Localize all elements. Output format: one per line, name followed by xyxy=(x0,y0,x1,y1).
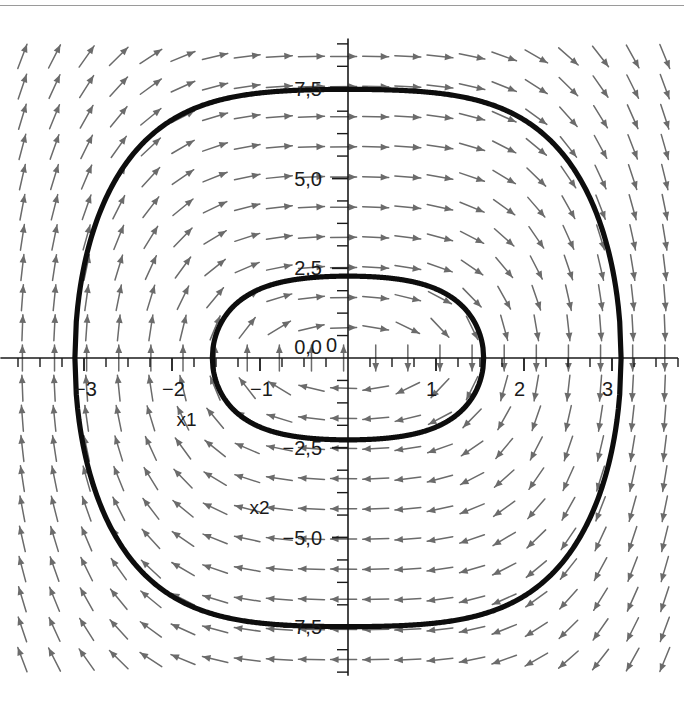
vector-arrowhead xyxy=(596,453,603,462)
vector-arrowhead xyxy=(363,506,371,513)
vector-arrowhead xyxy=(267,475,275,482)
y-tick-label: −2,5 xyxy=(283,437,322,459)
vector-arrowhead xyxy=(266,656,274,663)
vector-arrowhead xyxy=(661,483,668,491)
vector-arrowhead xyxy=(19,375,26,383)
vector-arrowhead xyxy=(629,393,636,401)
vector-arrowhead xyxy=(534,332,541,340)
axes-layer xyxy=(0,38,678,675)
vector-arrowhead xyxy=(630,272,637,280)
vector-arrowhead xyxy=(444,144,452,151)
vector-arrowhead xyxy=(276,345,283,353)
vector-arrowhead xyxy=(21,104,28,113)
vector-arrowhead xyxy=(331,536,339,543)
vector-arrowhead xyxy=(283,293,292,300)
vector-arrowhead xyxy=(180,345,187,353)
vector-arrowhead xyxy=(502,332,509,341)
vector-arrowhead xyxy=(117,255,124,264)
vector-arrowhead xyxy=(53,105,59,114)
vector-arrowhead xyxy=(395,536,403,543)
vector-arrowhead xyxy=(234,625,242,632)
x-tick-label: 1 xyxy=(426,378,437,400)
vector-arrowhead xyxy=(151,226,158,235)
vector-arrowhead xyxy=(18,436,25,444)
vector-arrowhead xyxy=(140,622,148,629)
y-tick-label: 2,5 xyxy=(294,257,322,279)
vector-arrowhead xyxy=(628,513,635,522)
vector-arrowhead xyxy=(526,599,534,606)
x-tick-label: −3 xyxy=(74,378,97,400)
vector-arrowhead xyxy=(83,405,90,413)
vector-arrowhead xyxy=(316,234,324,241)
vector-arrowhead xyxy=(460,537,469,543)
vector-arrowhead xyxy=(234,656,242,663)
vector-arrowhead xyxy=(331,415,339,422)
y-tick-label: −5,0 xyxy=(283,527,322,549)
vector-arrowhead xyxy=(203,564,212,570)
vector-arrowhead xyxy=(662,333,669,341)
plot-canvas: −3−2−10123−7,5−5,0−2,52,55,07,50,0x1x2 xyxy=(0,0,684,713)
vector-arrowhead xyxy=(412,265,420,272)
vector-arrowhead xyxy=(413,53,421,60)
vector-arrowhead xyxy=(532,393,539,401)
vector-arrowhead xyxy=(203,534,212,540)
vector-arrowhead xyxy=(349,234,357,241)
vector-arrowhead xyxy=(444,175,452,182)
vector-arrowhead xyxy=(84,315,91,323)
vector-arrowhead xyxy=(84,285,91,293)
vector-arrowhead xyxy=(51,345,58,353)
vector-arrowhead xyxy=(596,423,603,431)
vector-arrowhead xyxy=(444,114,452,121)
vector-arrowhead xyxy=(19,405,26,413)
vector-arrowhead xyxy=(381,53,389,60)
vector-arrowhead xyxy=(476,84,485,91)
vector-arrowhead xyxy=(331,566,339,573)
vector-arrowhead xyxy=(219,112,228,119)
vector-arrowhead xyxy=(298,656,306,663)
vector-arrowhead xyxy=(536,240,543,249)
vector-arrowhead xyxy=(298,596,306,603)
vector-arrowhead xyxy=(251,173,260,180)
vector-arrowhead xyxy=(427,536,435,543)
vector-arrowhead xyxy=(663,90,669,99)
vector-arrowhead xyxy=(395,446,403,453)
vector-arrowhead xyxy=(506,207,514,214)
vector-arrowhead xyxy=(630,333,637,341)
vector-arrowhead xyxy=(662,272,669,280)
vector-arrowhead xyxy=(381,174,389,181)
vector-arrowhead xyxy=(660,633,666,642)
vector-arrowhead xyxy=(445,84,453,91)
vector-arrowhead xyxy=(508,55,517,61)
vector-arrowhead xyxy=(427,506,436,513)
vector-arrowhead xyxy=(19,345,26,353)
vector-arrowhead xyxy=(20,164,27,173)
vector-arrowhead xyxy=(381,113,389,120)
vector-arrowhead xyxy=(565,393,572,401)
vector-arrowhead xyxy=(50,527,57,536)
vector-arrowhead xyxy=(413,114,421,121)
vector-arrowhead xyxy=(427,627,435,634)
vector-arrowhead xyxy=(299,384,308,391)
vector-arrowhead xyxy=(349,174,357,181)
vector-arrowhead xyxy=(53,165,60,174)
vector-arrowhead xyxy=(148,315,155,323)
vector-arrowhead xyxy=(598,302,605,310)
vector-arrowhead xyxy=(363,566,371,573)
vector-arrowhead xyxy=(252,143,260,150)
vector-arrowhead xyxy=(251,233,260,239)
vector-arrowhead xyxy=(629,453,636,461)
vector-arrowhead xyxy=(600,119,607,128)
vector-arrowhead xyxy=(19,315,26,323)
vector-arrowhead xyxy=(267,414,276,421)
vector-arrowhead xyxy=(492,628,501,634)
vector-arrowhead xyxy=(538,117,546,124)
phase-portrait-figure: −3−2−10123−7,5−5,0−2,52,55,07,50,0x1x2 xyxy=(0,0,684,713)
vector-arrowhead xyxy=(234,565,242,572)
vector-arrowhead xyxy=(566,302,573,311)
vector-arrowhead xyxy=(601,89,608,98)
vector-arrowhead xyxy=(266,595,274,602)
vector-arrowhead xyxy=(381,234,389,241)
x-tick-label: −2 xyxy=(162,378,185,400)
axis-name-annotation: x2 xyxy=(249,497,269,518)
vector-arrowhead xyxy=(662,242,669,250)
